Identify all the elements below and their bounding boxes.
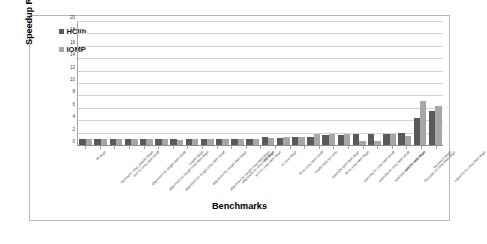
bar-iomp <box>283 137 289 145</box>
x-tick-mark <box>377 146 378 149</box>
x-tick-mark <box>406 146 407 149</box>
x-tick-mark <box>100 146 101 149</box>
bar-iomp <box>374 141 380 145</box>
y-axis-tick-label: 6 <box>72 101 75 106</box>
bar-iomp <box>238 139 244 145</box>
x-tick-mark <box>436 146 437 149</box>
bar-series-container <box>78 22 443 145</box>
x-tick-mark <box>275 146 276 149</box>
bar-group <box>367 22 382 145</box>
y-axis-tick-label: 10 <box>70 77 75 82</box>
x-axis-title: Benchmarks <box>30 201 449 211</box>
x-tick-mark <box>202 146 203 149</box>
bar-iomp <box>146 139 152 145</box>
y-axis-tick-label: 4 <box>72 114 75 119</box>
bar-group <box>276 22 291 145</box>
x-tick-mark <box>217 146 218 149</box>
x-tick-mark <box>260 146 261 149</box>
x-axis-category-label: nc-omp-large <box>280 150 297 167</box>
bar-group <box>306 22 321 145</box>
bar-group <box>382 22 397 145</box>
bar-group <box>108 22 123 145</box>
bar-group <box>124 22 139 145</box>
x-axis-category-label: fft-large <box>95 150 106 161</box>
y-axis-tick-label: 20 <box>70 15 75 20</box>
x-tick-mark <box>304 146 305 149</box>
y-axis-tick-label: 2 <box>72 126 75 131</box>
y-axis-tick-label: 18 <box>70 27 75 32</box>
bar-group <box>245 22 260 145</box>
bar-group <box>78 22 93 145</box>
bar-iomp <box>207 139 213 145</box>
legend-swatch-icon-iomp <box>59 47 64 52</box>
bar-group <box>215 22 230 145</box>
bar-iomp <box>177 140 183 145</box>
x-tick-mark <box>231 146 232 149</box>
x-tick-mark <box>246 146 247 149</box>
bar-iomp <box>222 139 228 145</box>
bar-iomp <box>435 106 441 145</box>
bar-iomp <box>298 137 304 145</box>
bar-group <box>397 22 412 145</box>
bar-iomp <box>101 139 107 145</box>
bar-group <box>200 22 215 145</box>
bar-iomp <box>359 141 365 145</box>
x-tick-mark <box>85 146 86 149</box>
bar-group <box>412 22 427 145</box>
bar-group <box>336 22 351 145</box>
x-tick-mark <box>363 146 364 149</box>
y-axis-tick-label: 14 <box>70 52 75 57</box>
x-tick-mark <box>129 146 130 149</box>
bar-iomp <box>405 136 411 145</box>
x-tick-mark <box>173 146 174 149</box>
plot-area: 02468101214161820 <box>77 22 443 146</box>
bar-group <box>291 22 306 145</box>
bar-group <box>139 22 154 145</box>
bar-iomp <box>253 139 259 145</box>
y-axis-tick-label: 16 <box>70 39 75 44</box>
x-tick-mark <box>187 146 188 149</box>
bar-iomp <box>86 139 92 145</box>
y-axis-title: Speedup Relative to GOMP <box>24 0 38 46</box>
x-tick-mark <box>114 146 115 149</box>
x-tick-mark <box>319 146 320 149</box>
bar-group <box>352 22 367 145</box>
bar-iomp <box>420 101 426 145</box>
x-axis-category-label: fannkuch_omp_double-large <box>120 150 154 184</box>
bar-group <box>169 22 184 145</box>
bar-iomp <box>314 134 320 145</box>
bar-iomp <box>116 139 122 145</box>
bar-iomp <box>344 134 350 145</box>
bar-group <box>260 22 275 145</box>
y-axis-tick-label: 12 <box>70 64 75 69</box>
x-tick-mark <box>158 146 159 149</box>
bar-group <box>321 22 336 145</box>
x-tick-mark <box>290 146 291 149</box>
y-axis-tick-label: 8 <box>72 89 75 94</box>
x-tick-mark <box>421 146 422 149</box>
bar-iomp <box>268 138 274 145</box>
x-tick-mark <box>348 146 349 149</box>
chart-plot-frame: Speedup Relative to GOMP HClib IOMP 0246… <box>29 15 450 221</box>
bar-iomp <box>162 139 168 145</box>
bar-group <box>230 22 245 145</box>
legend-swatch-icon-hclib <box>59 29 64 34</box>
x-axis-category-label: floorplan-kc-omp-task-large <box>423 150 456 183</box>
x-axis-category-label: nqueens-kc-omp-task-large <box>454 150 487 183</box>
bar-iomp <box>192 139 198 145</box>
bar-iomp <box>329 134 335 145</box>
bar-group <box>184 22 199 145</box>
y-axis-tick-label: 0 <box>72 139 75 144</box>
x-tick-mark <box>144 146 145 149</box>
bar-group <box>428 22 443 145</box>
bar-group <box>93 22 108 145</box>
bar-group <box>154 22 169 145</box>
bar-iomp <box>131 139 137 145</box>
bar-iomp <box>390 134 396 145</box>
x-tick-mark <box>333 146 334 149</box>
